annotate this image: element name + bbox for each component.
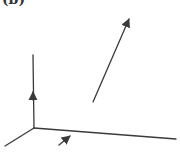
large-vector-arrow-icon bbox=[93, 19, 129, 102]
small-vector-arrow-icon bbox=[59, 136, 70, 145]
diagonal-axis bbox=[5, 128, 34, 146]
horizontal-axis bbox=[34, 128, 176, 139]
vector-diagram bbox=[0, 0, 180, 163]
